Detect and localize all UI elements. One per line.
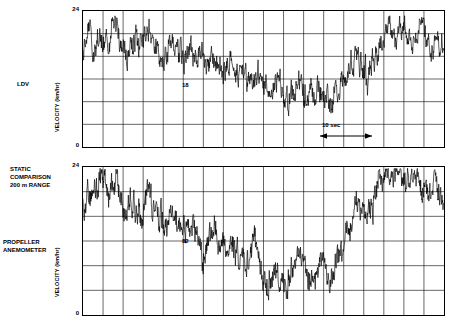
static-annotation-line1: STATIC — [10, 165, 31, 173]
prop-y-axis-title: VELOCITY (km/hr) — [54, 247, 60, 297]
prop-series-label-line1: PROPELLER — [3, 238, 40, 246]
scale-bar-label: 10 sec — [322, 122, 340, 128]
ldv-ytick-min: 0 — [61, 142, 79, 148]
scale-bar — [316, 131, 376, 141]
ldv-series-label: LDV — [17, 80, 29, 88]
ldv-plot-area — [82, 10, 445, 148]
ldv-y-axis-title: VELOCITY (km/hr) — [54, 82, 60, 132]
prop-series-label-line2: ANEMOMETER — [3, 246, 46, 254]
prop-ytick-max: 24 — [61, 162, 79, 168]
figure-root: 24 0 VELOCITY (km/hr) LDV 18 10 sec STAT… — [0, 0, 453, 326]
prop-plot-area — [82, 166, 445, 316]
static-annotation-line3: 200 m RANGE — [10, 181, 50, 189]
ldv-ytick-max: 24 — [61, 6, 79, 12]
prop-inline-marker: 82 — [182, 238, 189, 244]
static-annotation-line2: COMPARISON — [10, 173, 51, 181]
prop-ytick-min: 0 — [61, 310, 79, 316]
prop-plot-svg — [83, 167, 444, 315]
ldv-plot-svg — [83, 11, 444, 147]
ldv-inline-marker: 18 — [182, 82, 189, 88]
